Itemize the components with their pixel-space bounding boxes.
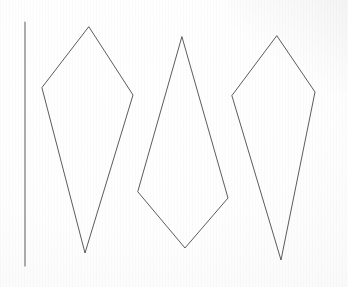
hand-drawn-figures xyxy=(0,0,348,287)
scanned-figure-page xyxy=(0,0,348,287)
kite-shape-right xyxy=(232,36,315,260)
kite-shape-middle xyxy=(138,37,228,248)
kite-shape-left xyxy=(42,27,133,253)
